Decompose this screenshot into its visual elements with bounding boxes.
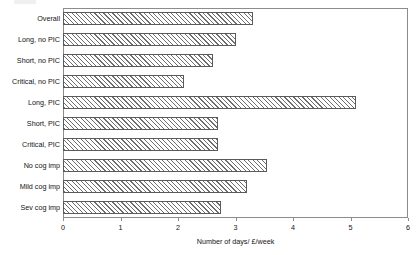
bar-row (63, 71, 408, 92)
bar-row (63, 92, 408, 113)
bar (63, 180, 247, 193)
bar-row (63, 8, 408, 29)
category-label: Long, no PIC (0, 35, 60, 44)
category-label: Long, PIC (0, 98, 60, 107)
x-tick-label: 0 (53, 223, 73, 232)
bar-row (63, 29, 408, 50)
bar (63, 201, 221, 214)
x-tick-mark (121, 218, 122, 221)
bar-row (63, 176, 408, 197)
category-label: Mild cog imp (0, 182, 60, 191)
x-tick-label: 6 (398, 223, 417, 232)
bar (63, 33, 236, 46)
bar-row (63, 50, 408, 71)
bar (63, 75, 184, 88)
bar (63, 12, 253, 25)
x-tick-mark (63, 218, 64, 221)
category-label: Short, PIC (0, 119, 60, 128)
x-tick-label: 5 (341, 223, 361, 232)
bar-row (63, 134, 408, 155)
bars-container (63, 8, 408, 218)
bar-row (63, 155, 408, 176)
category-label: Short, no PIC (0, 56, 60, 65)
bar-chart: OverallLong, no PICShort, no PICCritical… (0, 0, 417, 255)
bar (63, 96, 356, 109)
x-tick-mark (236, 218, 237, 221)
x-tick-mark (351, 218, 352, 221)
bar-row (63, 113, 408, 134)
x-axis-title: Number of days/ £/week (63, 237, 408, 246)
x-tick-label: 3 (226, 223, 246, 232)
x-tick-label: 2 (168, 223, 188, 232)
category-label: No cog imp (0, 161, 60, 170)
bar (63, 117, 218, 130)
bar (63, 138, 218, 151)
x-tick-label: 4 (283, 223, 303, 232)
x-tick-mark (293, 218, 294, 221)
x-tick-mark (178, 218, 179, 221)
x-tick-label: 1 (111, 223, 131, 232)
x-tick-mark (408, 218, 409, 221)
category-label: Critical, no PIC (0, 77, 60, 86)
bar-row (63, 197, 408, 218)
category-label: Sev cog imp (0, 203, 60, 212)
category-label: Overall (0, 14, 60, 23)
category-axis-labels: OverallLong, no PICShort, no PICCritical… (0, 8, 60, 218)
bar (63, 159, 267, 172)
scan-artifact (14, 0, 36, 4)
bar (63, 54, 213, 67)
category-label: Critical, PIC (0, 140, 60, 149)
